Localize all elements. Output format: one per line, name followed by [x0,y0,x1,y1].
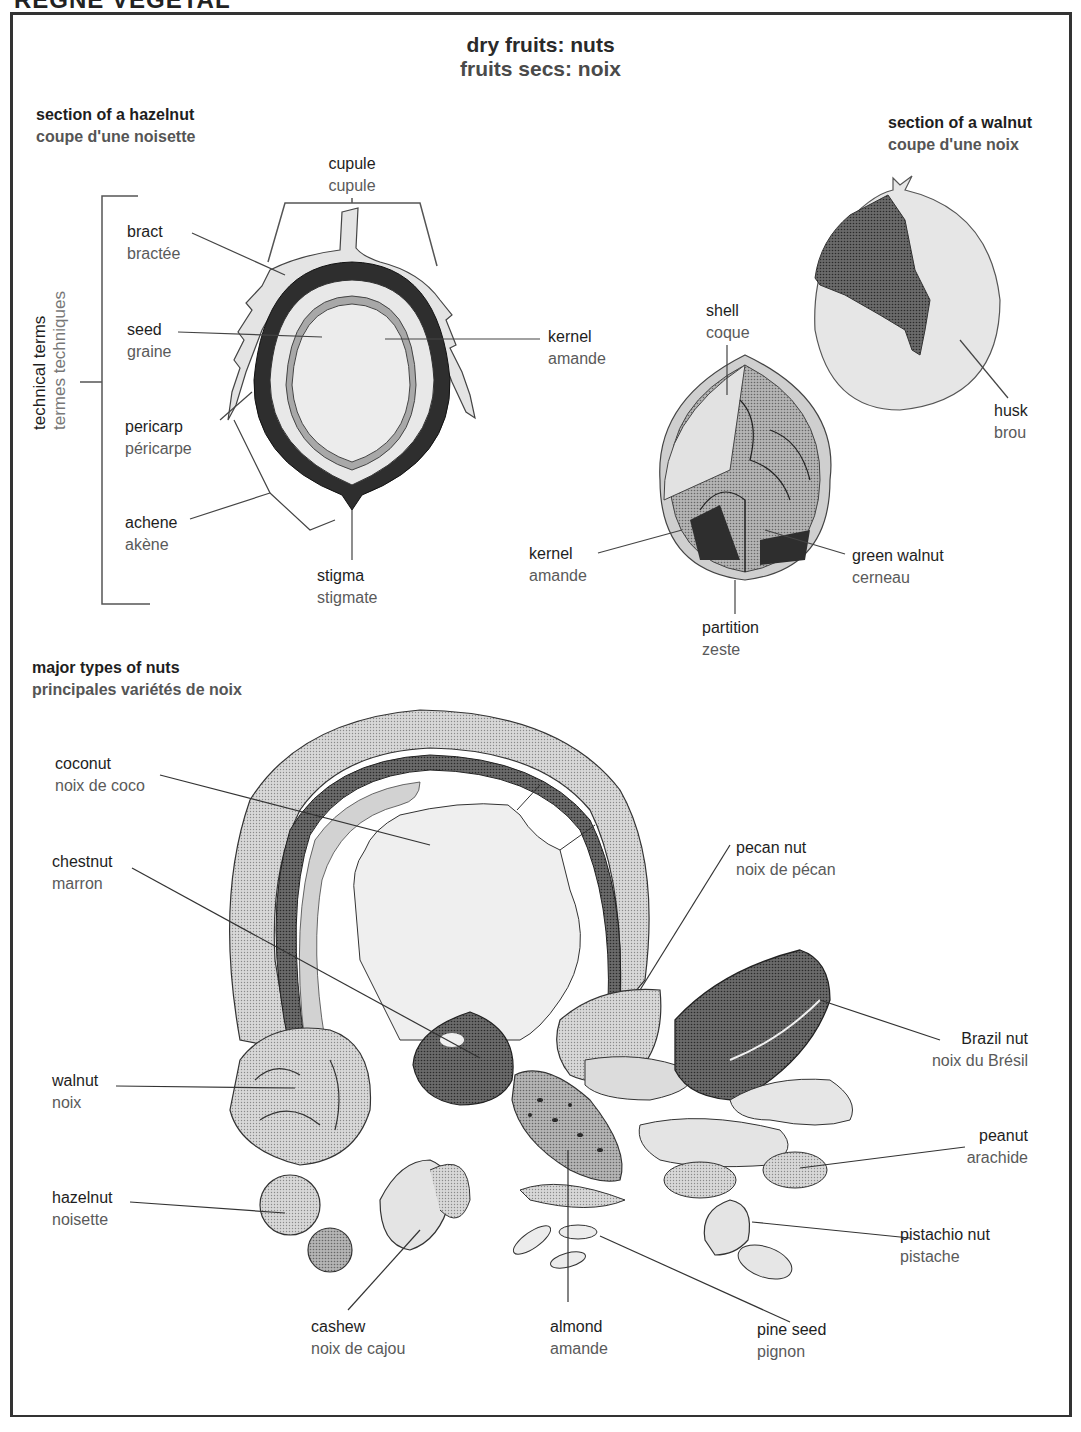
label-husk: husk brou [994,400,1028,443]
nut-types-heading: major types of nuts principales variétés… [32,657,242,700]
label-achene: achene akène [125,512,178,555]
illustration-layer [0,0,1081,1432]
walnut-section-drawing [598,176,1008,614]
label-brazil-nut: Brazil nut noix du Brésil [890,1028,1028,1071]
label-pericarp: pericarp péricarpe [125,416,192,459]
hazelnut-section-heading: section of a hazelnut coupe d'une noiset… [36,104,195,147]
page-title-en: dry fruits: nuts [0,33,1081,57]
label-shell: shell coque [706,300,750,343]
label-cashew: cashew noix de cajou [311,1316,405,1359]
label-cupule: cupule cupule [312,153,392,196]
label-bract: bract bractée [127,221,180,264]
page-title-fr: fruits secs: noix [0,57,1081,81]
label-walnut: walnut noix [52,1070,98,1113]
technical-terms-label: technical terms termes techniques [30,291,71,430]
label-pine-seed: pine seed pignon [757,1319,826,1362]
label-chestnut: chestnut marron [52,851,112,894]
label-peanut: peanut arachide [900,1125,1028,1168]
walnut-section-heading: section of a walnut coupe d'une noix [888,112,1032,155]
label-hazelnut-kernel: kernel amande [548,326,606,369]
label-walnut-kernel: kernel amande [529,543,587,586]
label-almond: almond amande [550,1316,608,1359]
page-title: dry fruits: nuts fruits secs: noix [0,33,1081,81]
nut-types-drawing [116,710,965,1322]
label-pecan-nut: pecan nut noix de pécan [736,837,836,880]
label-hazelnut: hazelnut noisette [52,1187,113,1230]
label-partition: partition zeste [702,617,759,660]
label-green-walnut: green walnut cerneau [852,545,944,588]
label-coconut: coconut noix de coco [55,753,145,796]
label-stigma: stigma stigmate [317,565,377,608]
label-seed: seed graine [127,319,171,362]
label-pistachio: pistachio nut pistache [900,1224,1028,1267]
